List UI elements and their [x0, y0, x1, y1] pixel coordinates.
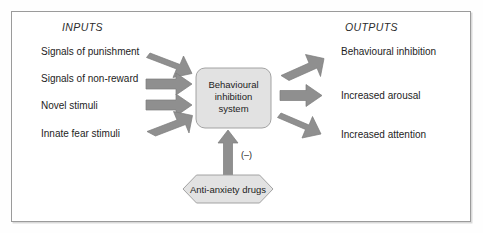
input-label-novel-stimuli: Novel stimuli: [41, 100, 98, 111]
central-node-line-3: system: [196, 103, 271, 115]
output-label-behavioural-inhibition: Behavioural inhibition: [341, 46, 436, 57]
modulator-label: Anti-anxiety drugs: [183, 184, 273, 195]
arrow-input-4: [147, 112, 193, 137]
output-label-increased-attention: Increased attention: [341, 129, 426, 140]
central-node-line-1: Behavioural: [196, 79, 271, 91]
arrow-input-3: [146, 94, 192, 116]
arrow-output-2: [280, 85, 322, 107]
inhibition-sign: (–): [241, 150, 252, 160]
arrow-input-2: [146, 73, 192, 95]
input-label-signals-of-non-reward: Signals of non-reward: [41, 73, 138, 84]
output-label-increased-arousal: Increased arousal: [341, 90, 421, 101]
diagram-graphics: .ar { fill: #8f8f8f; stroke: #7b7b7b; st…: [0, 0, 483, 233]
figure-canvas: .ar { fill: #8f8f8f; stroke: #7b7b7b; st…: [0, 0, 483, 233]
arrow-input-1: [147, 53, 193, 78]
inputs-header: INPUTS: [62, 21, 103, 33]
outputs-header: OUTPUTS: [345, 21, 398, 33]
arrow-output-1: [281, 55, 324, 81]
arrow-output-3: [278, 113, 322, 138]
input-label-innate-fear-stimuli: Innate fear stimuli: [41, 128, 120, 139]
arrow-modulator-up: [218, 130, 238, 176]
input-label-signals-of-punishment: Signals of punishment: [41, 46, 139, 57]
central-node-line-2: inhibition: [196, 91, 271, 103]
